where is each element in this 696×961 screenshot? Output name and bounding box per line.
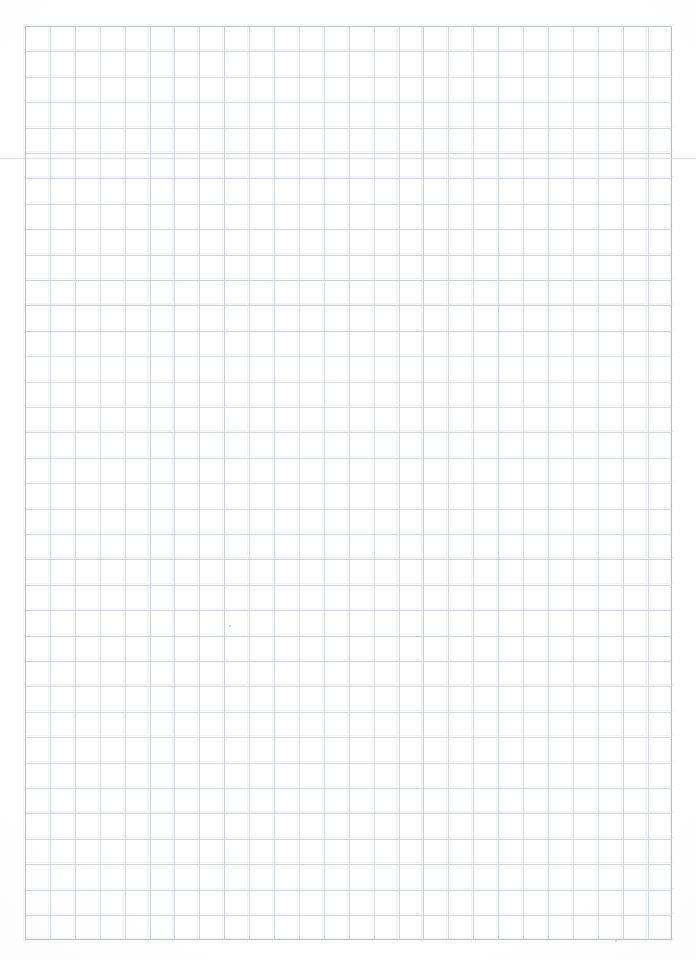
scan-speck	[615, 940, 617, 942]
grid-sheet	[25, 26, 672, 940]
graph-paper-page	[0, 0, 696, 961]
scan-speck	[229, 625, 231, 627]
grid-lines	[25, 26, 672, 940]
